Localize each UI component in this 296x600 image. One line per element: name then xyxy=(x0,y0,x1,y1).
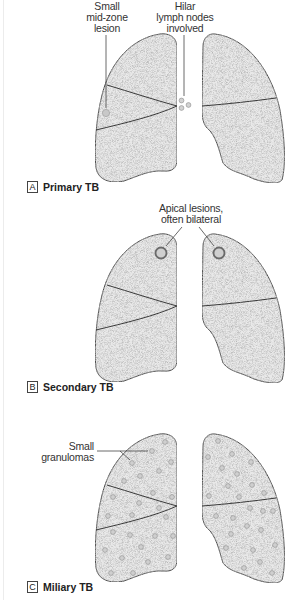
panel-letter-box: C xyxy=(27,581,38,593)
apical-lesion-right xyxy=(214,248,225,259)
callout-line: granulomas xyxy=(40,452,94,463)
caption-primary-tb: A Primary TB xyxy=(27,181,99,193)
left-lung xyxy=(95,434,177,582)
panel-miliary-tb: Small granulomas C Miliary TB xyxy=(0,400,296,600)
panel-title: Primary TB xyxy=(43,181,99,193)
panel-letter-box: B xyxy=(27,381,38,393)
caption-secondary-tb: B Secondary TB xyxy=(27,381,114,393)
panel-title: Secondary TB xyxy=(43,381,114,393)
panel-secondary-tb: Apical lesions, often bilateral B Second… xyxy=(0,200,296,400)
callout-hilar-lymph-nodes: Hilar lymph nodes involved xyxy=(155,1,215,34)
caption-miliary-tb: C Miliary TB xyxy=(27,581,93,593)
callout-mid-zone-lesion: Small mid-zone lesion xyxy=(82,1,132,34)
right-lung xyxy=(202,434,284,583)
miliary-tb-lungs-illustration xyxy=(0,400,296,600)
callout-apical-lesions: Apical lesions, often bilateral xyxy=(153,203,229,225)
left-lung xyxy=(95,34,177,182)
mid-zone-lesion xyxy=(102,109,109,116)
panel-title: Miliary TB xyxy=(43,581,93,593)
hilar-lymph-node xyxy=(179,98,184,103)
hilar-lymph-node xyxy=(186,103,191,108)
secondary-tb-lungs-illustration xyxy=(0,200,296,400)
panel-primary-tb: Small mid-zone lesion Hilar lymph nodes … xyxy=(0,0,296,200)
panel-letter-box: A xyxy=(27,181,38,193)
primary-tb-lungs-illustration xyxy=(0,0,296,200)
callout-line: lesion xyxy=(82,23,132,34)
callout-line: often bilateral xyxy=(153,214,229,225)
apical-lesion-left xyxy=(156,248,167,259)
callout-small-granulomas: Small granulomas xyxy=(40,441,94,463)
callout-line: involved xyxy=(155,23,215,34)
hilar-lymph-node xyxy=(179,106,184,111)
right-lung xyxy=(202,34,284,183)
